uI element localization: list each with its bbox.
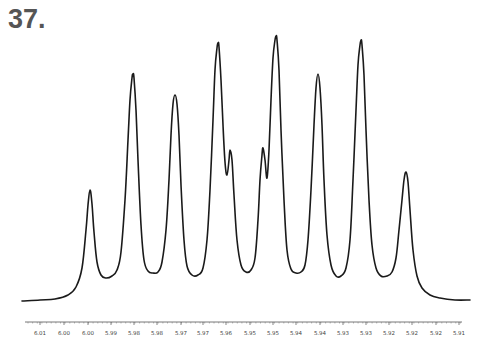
x-tick-label: 5.94 <box>314 330 327 336</box>
x-tick-label: 5.95 <box>267 330 280 336</box>
x-tick-label: 5.97 <box>197 330 210 336</box>
x-tick-label: 5.92 <box>383 330 395 336</box>
x-tick-label: 6.01 <box>34 330 46 336</box>
x-tick-label: 5.91 <box>453 330 465 336</box>
x-tick-label: 5.99 <box>105 330 118 336</box>
x-tick-label: 5.93 <box>360 330 373 336</box>
x-axis-tick-labels: 6.016.006.005.995.985.985.975.975.965.95… <box>34 322 465 336</box>
x-tick-label: 5.97 <box>175 330 188 336</box>
x-tick-label: 5.96 <box>220 330 233 336</box>
x-tick-label: 5.92 <box>430 330 442 336</box>
x-tick-label: 5.98 <box>151 330 164 336</box>
x-axis: 6.016.006.005.995.985.985.975.975.965.95… <box>25 322 465 336</box>
x-tick-label: 5.92 <box>406 330 418 336</box>
x-tick-label: 6.00 <box>58 330 71 336</box>
x-tick-label: 5.98 <box>128 330 141 336</box>
nmr-spectrum-chart: 6.016.006.005.995.985.985.975.975.965.95… <box>0 0 497 364</box>
spectrum-line <box>22 36 470 301</box>
x-tick-label: 5.94 <box>290 330 303 336</box>
x-tick-label: 5.93 <box>337 330 350 336</box>
x-tick-label: 5.95 <box>244 330 257 336</box>
x-tick-label: 6.00 <box>82 330 95 336</box>
